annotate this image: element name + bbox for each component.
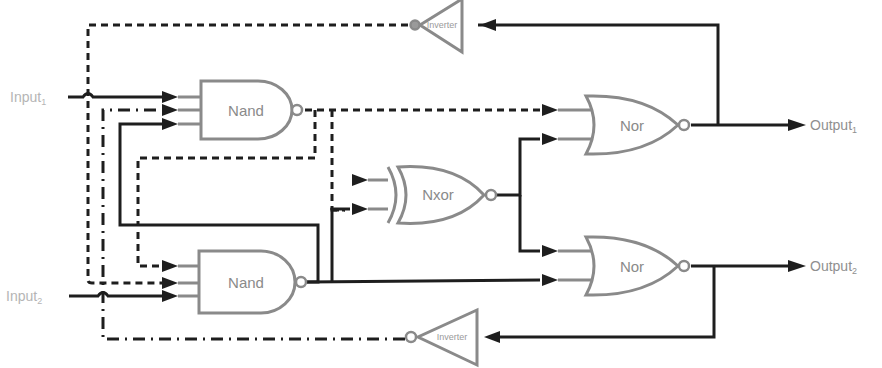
nand-gate-1: Nand [201, 81, 302, 139]
arrow-icon [162, 118, 178, 130]
arrow-icon [484, 331, 500, 343]
wire-inverter-top-to-nand2 [88, 25, 408, 283]
xnor-gate-label: Nxor [422, 186, 454, 203]
output-2-label: Output2 [810, 258, 857, 276]
arrow-icon [162, 104, 178, 116]
nor-gate-1: Nor [586, 96, 689, 154]
wire-nand2-to-nxor [332, 209, 350, 282]
inverter-top-label: Inverter [427, 20, 458, 30]
inverter-gate-bottom: Inverter [406, 310, 477, 365]
nand-gate-1-label: Nand [228, 102, 264, 119]
nor-gate-1-label: Nor [620, 117, 644, 134]
arrow-icon [162, 91, 178, 103]
wire-nxor-to-nor2 [520, 195, 540, 251]
arrow-icon [162, 260, 178, 272]
nand-gate-2-label: Nand [228, 274, 264, 291]
wire-nand2-to-nor2 [307, 280, 540, 282]
nand-gate-2: Nand [199, 251, 306, 313]
arrow-icon [352, 203, 368, 215]
arrow-icon [542, 104, 558, 116]
output-1-label: Output1 [810, 117, 857, 135]
arrow-icon [542, 274, 558, 286]
arrow-icon [352, 174, 368, 186]
xnor-gate: Nxor [388, 167, 496, 224]
input-2-label: Input2 [6, 288, 42, 306]
arrow-icon [788, 260, 806, 272]
arrow-icon [542, 133, 558, 145]
wire-input2-to-nand2 [69, 293, 165, 297]
logic-circuit-diagram: Nand Nand Nxor Nor Nor Inverter Inverter… [0, 0, 882, 368]
arrow-icon [788, 119, 806, 131]
arrow-icon [162, 277, 178, 289]
wire-nxor-to-nor1 [497, 139, 540, 195]
inverter-gate-top: Inverter [411, 0, 463, 52]
arrow-icon [542, 245, 558, 257]
input-1-label: Input1 [10, 89, 46, 107]
arrow-icon [480, 19, 496, 31]
nor-gate-2-label: Nor [620, 258, 644, 275]
inverter-bottom-label: Inverter [437, 332, 468, 342]
nor-gate-2: Nor [586, 237, 689, 295]
wire-input1-to-nand1 [68, 94, 165, 98]
